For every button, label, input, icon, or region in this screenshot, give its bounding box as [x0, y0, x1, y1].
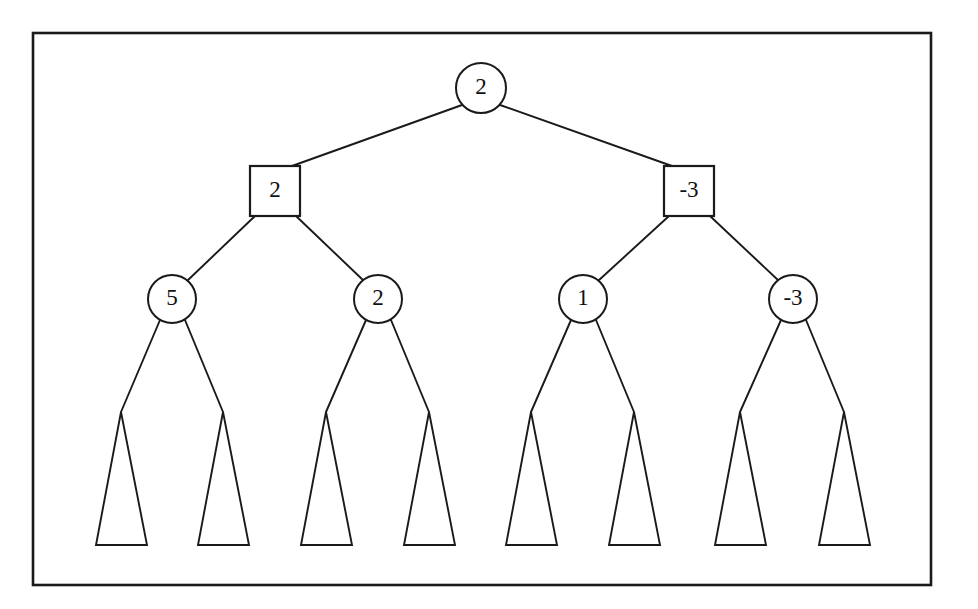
tree-edge-e-right-rl: [598, 216, 669, 281]
tree-node-n-ll[interactable]: 5: [148, 275, 196, 323]
subtree-placeholder-t8[interactable]: [819, 412, 870, 545]
tree-edge-e-lr-t3: [326, 320, 366, 412]
node-value-label-n-rr: -3: [783, 285, 802, 310]
node-value-label-n-lr: 2: [372, 285, 384, 310]
subtree-placeholder-t5[interactable]: [506, 412, 557, 545]
subtree-placeholder-t2[interactable]: [198, 412, 249, 545]
subtrees-layer: [96, 412, 870, 545]
nodes-layer: 22-3521-3: [148, 63, 817, 323]
subtree-placeholder-t6[interactable]: [609, 412, 660, 545]
tree-edge-e-ll-t2: [185, 320, 223, 412]
node-value-label-root: 2: [475, 74, 487, 99]
node-value-label-n-left: 2: [269, 177, 281, 202]
tree-edge-e-rl-t5: [531, 320, 571, 412]
tree-edge-e-root-left: [292, 105, 462, 166]
tree-edge-e-rr-t8: [806, 320, 844, 412]
tree-edge-e-left-ll: [187, 216, 255, 281]
game-tree-diagram: 22-3521-3: [0, 0, 978, 609]
subtree-placeholder-t3[interactable]: [301, 412, 352, 545]
node-value-label-n-rl: 1: [577, 285, 589, 310]
tree-node-n-rl[interactable]: 1: [559, 275, 607, 323]
edges-layer: [121, 105, 844, 412]
tree-edge-e-right-rr: [710, 216, 779, 281]
subtree-placeholder-t1[interactable]: [96, 412, 147, 545]
tree-edge-e-rr-t7: [740, 320, 781, 412]
figure-root: 22-3521-3: [0, 0, 978, 609]
tree-node-root[interactable]: 2: [456, 63, 506, 113]
tree-node-n-rr[interactable]: -3: [769, 275, 817, 323]
subtree-placeholder-t7[interactable]: [715, 412, 766, 545]
tree-node-n-left[interactable]: 2: [250, 166, 300, 216]
tree-edge-e-lr-t4: [391, 320, 429, 412]
tree-edge-e-rl-t6: [596, 320, 634, 412]
tree-edge-e-left-lr: [296, 216, 364, 281]
node-value-label-n-ll: 5: [166, 285, 178, 310]
tree-node-n-lr[interactable]: 2: [354, 275, 402, 323]
tree-edge-e-ll-t1: [121, 320, 160, 412]
subtree-placeholder-t4[interactable]: [404, 412, 455, 545]
node-value-label-n-right: -3: [679, 177, 698, 202]
tree-node-n-right[interactable]: -3: [664, 166, 714, 216]
tree-edge-e-root-right: [500, 105, 672, 166]
